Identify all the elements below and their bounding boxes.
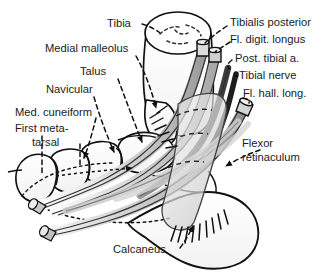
label-flexor-retinaculum-line2: retinaculum bbox=[242, 151, 300, 163]
label-medial-malleolus: Medial malleolus bbox=[45, 42, 129, 54]
label-talus: Talus bbox=[80, 65, 107, 77]
label-fl-digit-longus: Fl. digit. longus bbox=[230, 33, 306, 45]
label-flexor-retinaculum-line1: Flexor bbox=[242, 137, 273, 149]
label-first-metatarsal-line2: tarsal bbox=[32, 136, 59, 148]
label-tibial-nerve: Tibial nerve bbox=[239, 69, 296, 81]
label-fl-hall-long: Fl. hall. long. bbox=[243, 87, 306, 99]
label-med-cuneiform: Med. cuneiform bbox=[15, 106, 92, 118]
label-navicular: Navicular bbox=[46, 83, 93, 95]
diagram-canvas: Tibia Medial malleolus Talus Navicular M… bbox=[0, 0, 321, 276]
label-post-tibial-a: Post. tibial a. bbox=[235, 52, 299, 64]
label-calcaneus: Calcaneus bbox=[113, 243, 166, 255]
label-first-metatarsal-line1: First meta- bbox=[15, 122, 69, 134]
anatomy-illustration: Tibia Medial malleolus Talus Navicular M… bbox=[0, 0, 321, 276]
label-tibialis-posterior: Tibialis posterior bbox=[230, 16, 311, 28]
label-tibia: Tibia bbox=[107, 17, 132, 29]
